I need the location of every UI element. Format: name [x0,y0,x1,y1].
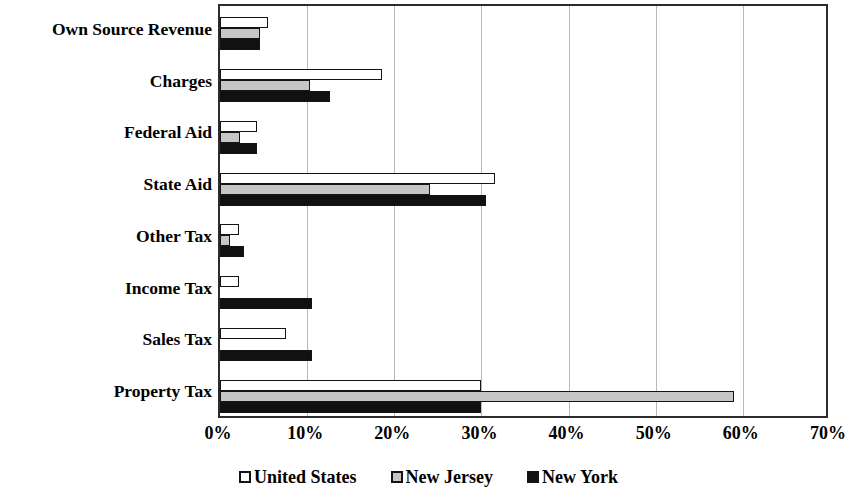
legend-swatch-black-icon [527,471,539,483]
x-tick-label: 10% [270,424,340,442]
bar-group [220,213,826,265]
category-label: Charges [0,73,212,91]
legend-swatch-gray-icon [391,471,403,483]
legend-item[interactable]: New Jersey [391,468,493,486]
x-tick-label: 30% [444,424,514,442]
bar-row [220,17,826,28]
bar-chart: Own Source RevenueChargesFederal AidStat… [0,0,857,498]
bar [220,195,486,206]
legend-label: New York [542,468,618,486]
x-tick-label: 50% [619,424,689,442]
bar-row [220,143,826,154]
bar [220,121,257,132]
bar-row [220,328,826,339]
category-label: Property Tax [0,383,212,401]
bar-group [220,6,826,58]
bar [220,350,312,361]
category-label: Other Tax [0,228,212,246]
bar-row [220,402,826,413]
category-label: Federal Aid [0,124,212,142]
bar-row [220,246,826,257]
bar-group [220,368,826,420]
bar [220,328,286,339]
bar [220,276,239,287]
category-label: Sales Tax [0,331,212,349]
x-tick-label: 0% [183,424,253,442]
bar [220,224,239,235]
bar [220,91,330,102]
bar-row [220,39,826,50]
x-tick-label: 40% [532,424,602,442]
bar-row [220,391,826,402]
bar [220,132,240,143]
bar-row [220,380,826,391]
bar-row [220,298,826,309]
legend-item[interactable]: New York [527,468,618,486]
bar-row [220,339,826,350]
bar-row [220,91,826,102]
bar [220,17,268,28]
bar [220,80,310,91]
bar [220,184,430,195]
bar-group [220,58,826,110]
x-tick-label: 60% [706,424,776,442]
bar [220,402,481,413]
legend-label: United States [254,468,357,486]
bar-row [220,276,826,287]
category-label: Own Source Revenue [0,21,212,39]
bar [220,391,734,402]
bar-group [220,265,826,317]
bar-group [220,317,826,369]
bar [220,39,260,50]
x-tick-label: 70% [793,424,857,442]
bar-row [220,28,826,39]
bar-group [220,110,826,162]
bar-row [220,69,826,80]
legend-label: New Jersey [406,468,493,486]
legend-swatch-white-icon [239,471,251,483]
bar [220,69,382,80]
bar [220,143,257,154]
bar [220,173,495,184]
category-label: State Aid [0,176,212,194]
bar [220,380,481,391]
bar-row [220,121,826,132]
legend-item[interactable]: United States [239,468,357,486]
bar-row [220,184,826,195]
bar [220,235,230,246]
bar [220,246,244,257]
chart-legend: United StatesNew JerseyNew York [0,468,857,486]
bar-row [220,287,826,298]
bar-group [220,161,826,213]
bar-row [220,173,826,184]
bar-row [220,235,826,246]
category-label: Income Tax [0,280,212,298]
bar-row [220,350,826,361]
bar-row [220,132,826,143]
bar-row [220,224,826,235]
bar [220,28,260,39]
plot-area [218,4,828,418]
bar-row [220,80,826,91]
bar-row [220,195,826,206]
x-tick-label: 20% [357,424,427,442]
bar [220,298,312,309]
